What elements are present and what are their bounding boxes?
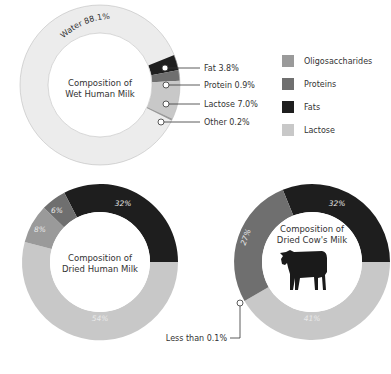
lactose-callout: Lactose 7.0% (204, 100, 258, 109)
legend-item-fats: Fats (282, 96, 372, 118)
lactose-swatch (282, 124, 294, 136)
legend-item-proteins: Proteins (282, 73, 372, 95)
dried-human-title-line1: Composition of (68, 253, 133, 263)
fats-pct: 32% (329, 199, 346, 208)
dried-human-milk-donut: 32% 54% 8% 6% Composition of Dried Human… (22, 184, 178, 340)
lactose-pct: 54% (92, 314, 109, 323)
dried-human-title-line2: Dried Human Milk (62, 264, 138, 274)
fats-swatch (282, 101, 294, 113)
protein-callout: Protein 0.9% (204, 81, 255, 90)
proteins-swatch (282, 78, 294, 90)
less-than-callout: Less than 0.1% (166, 300, 243, 343)
legend: Oligosaccharides Proteins Fats Lactose (282, 50, 372, 142)
wet-title-line2: Wet Human Milk (65, 89, 135, 99)
legend-item-lactose: Lactose (282, 119, 372, 141)
dried-cow-title-line2: Dried Cow's Milk (277, 235, 347, 245)
dried-cows-milk-donut: 32% 41% 27% Composition of Dried Cow's M… (166, 184, 390, 343)
oligo-pct: 8% (34, 225, 46, 234)
wet-human-milk-donut: Water 88.1% Composition of Wet Human Mil… (20, 5, 258, 165)
wet-title-line1: Composition of (68, 78, 133, 88)
other-callout: Other 0.2% (204, 118, 250, 127)
lactose-pct: 41% (304, 314, 321, 323)
dried-cow-title-line1: Composition of (280, 224, 345, 234)
legend-item-oligosaccharides: Oligosaccharides (282, 50, 372, 72)
fats-pct: 32% (115, 199, 132, 208)
oligosaccharides-swatch (282, 55, 294, 67)
fat-callout: Fat 3.8% (204, 64, 239, 73)
proteins-pct: 6% (51, 206, 63, 215)
less-than-label: Less than 0.1% (166, 334, 228, 343)
